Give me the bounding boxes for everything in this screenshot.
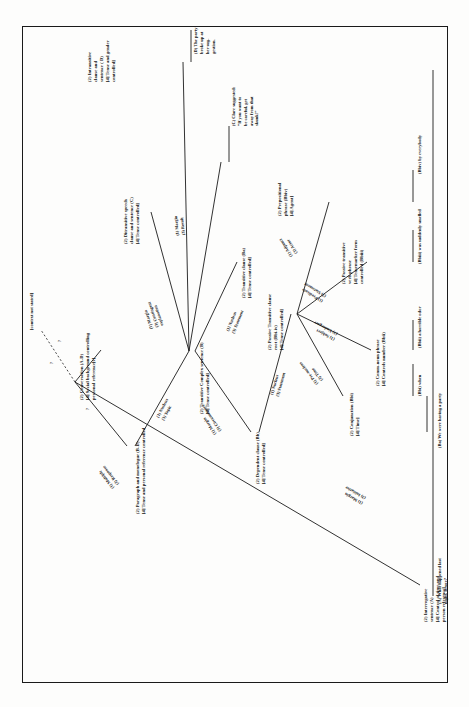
figure-page: [context not stated] ? ? ? (2) Conversat… [0,0,469,707]
edge-interrogative-conversation [75,382,420,585]
node-ditransitive-speech-clause[interactable]: (2) Ditransitive speech clause and sente… [123,160,141,244]
node-passive-transitive-clause-root[interactable]: (2) Passive Transitive clause root (Bbi-… [267,254,285,350]
query-mark-2: ? [57,340,62,342]
terminal-bbii: (Bbii) a horrible odor [417,282,423,348]
terminal-bbiii: (Bbiii) was suddenly smelled [417,182,423,264]
node-transitive-complex-sentence[interactable]: (2) Transitive Complex sentence (B) [4] … [199,284,211,414]
link-label-margin-result: (1) Margin (3) Result [173,215,186,236]
node-comm-noun-phrase[interactable]: (2) Comm-noun phrase [4] Controls number… [375,294,387,386]
node-conversation[interactable]: (2) Conversation (A-D) [4] Social backgr… [79,280,97,400]
query-mark-3: ? [85,408,90,410]
tree-canvas: [context not stated] ? ? ? (2) Conversat… [23,27,447,682]
terminal-c: (C) Clare suggested: “If you want to be … [231,70,260,126]
terminal-a: (A) What happened last night, Bruce? [437,524,449,604]
terminal-bbi: (Bbi) when [417,356,423,396]
node-intransitive-clause[interactable]: (2) Intransitive clause and sentence ( D… [87,26,116,82]
node-conjunction-bbi[interactable]: (2) Conjunction (Bbi) [4] Time] [349,356,361,436]
node-transitive-clause-ba[interactable]: (2) Transitive clause (Ba) [4] Tense con… [241,194,253,298]
node-dependent-clause-bb[interactable]: (2) Dependent clause (Bb) [4] Tense cont… [255,376,267,484]
node-paragraph-monologue[interactable]: (2) Paragraph and monologue (B-D) [4] Te… [135,354,147,514]
terminal-ba: (Ba) We were having a party [437,340,443,448]
node-prepositional-phrase[interactable]: (2) Prepositional phrase (Bbiv) [4] Agen… [277,154,295,216]
edge-paragraph-intransitive [183,62,189,351]
page-border: [context not stated] ? ? ? (2) Conversat… [22,26,448,683]
terminal-d: (D) The party broke up at her sug- gesti… [193,10,216,54]
context-note: [context not stated] [29,293,34,330]
node-passive-verb-phrase[interactable]: (2) Passive transitive verb phrase [4] T… [341,206,365,284]
query-mark-1: ? [49,362,54,364]
edge-context-dotted [41,330,75,382]
terminal-bbiv: (Bbiv) by everybody [417,114,423,174]
